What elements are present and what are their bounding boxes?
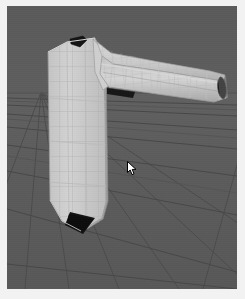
screenshot-root: [0, 0, 245, 299]
mesh-object[interactable]: [7, 6, 237, 289]
viewport-3d[interactable]: [7, 6, 237, 289]
